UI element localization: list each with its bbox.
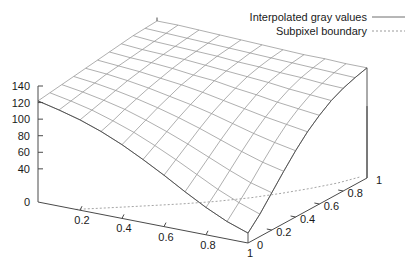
mesh-line-x — [101, 35, 220, 131]
x-axis-line — [38, 202, 248, 243]
mesh-line-y — [62, 85, 272, 193]
x-tick — [80, 206, 82, 210]
x-tick — [206, 231, 208, 235]
legend-label-1: Interpolated gray values — [250, 11, 368, 23]
mesh-line-x — [143, 45, 262, 160]
surface-plot-figure: 14012010080604000.20.40.60.8100.20.40.60… — [0, 0, 409, 265]
y-tick — [267, 229, 272, 230]
y-tick-label: 0.8 — [348, 187, 363, 199]
mesh-line-x — [38, 21, 157, 101]
surface-edge-y-min — [38, 101, 248, 233]
mesh-line-x — [80, 30, 199, 120]
x-tick — [122, 214, 124, 218]
z-tick-label: 60 — [18, 146, 30, 158]
mesh-line-x — [59, 25, 178, 110]
z-tick-label: 80 — [18, 130, 30, 142]
x-tick-label: 0.8 — [200, 239, 215, 251]
y-tick — [338, 190, 343, 191]
x-tick-label: 0.4 — [116, 222, 131, 234]
y-tick-label: 0 — [257, 239, 263, 251]
mesh-line-y — [121, 44, 331, 101]
surface-edge-x-max — [248, 68, 367, 233]
plot-legend: Interpolated gray valuesSubpixel boundar… — [250, 11, 405, 37]
mesh-line-y — [74, 76, 284, 171]
mesh-line-y — [86, 68, 296, 150]
legend-label-2: Subpixel boundary — [276, 25, 368, 37]
z-tick-label: 120 — [12, 97, 30, 109]
x-tick-label: 0.6 — [158, 231, 173, 243]
y-tick — [291, 216, 296, 217]
y-tick-label: 0.4 — [300, 213, 315, 225]
y-tick-label: 0.2 — [276, 226, 291, 238]
y-tick — [314, 203, 319, 204]
y-tick-label: 0.6 — [324, 200, 339, 212]
plot-canvas: 14012010080604000.20.40.60.8100.20.40.60… — [0, 0, 409, 265]
x-tick — [164, 223, 166, 227]
x-tick-label: 0.2 — [74, 214, 89, 226]
interpolated-gray-values-surface — [38, 21, 367, 243]
mesh-line-y — [38, 101, 248, 233]
y-tick-label: 1 — [376, 174, 382, 186]
z-tick-label: 40 — [18, 163, 30, 175]
z-origin-label: 0 — [24, 196, 30, 208]
mesh-line-y — [109, 52, 319, 115]
x-tick-label: 1 — [247, 247, 253, 259]
z-tick-label: 140 — [12, 80, 30, 92]
mesh-line-x — [122, 40, 241, 145]
mesh-line-x — [185, 55, 304, 192]
mesh-line-y — [133, 36, 343, 89]
z-tick-label: 100 — [12, 113, 30, 125]
mesh-line-x — [248, 68, 367, 233]
mesh-line-x — [227, 64, 346, 222]
